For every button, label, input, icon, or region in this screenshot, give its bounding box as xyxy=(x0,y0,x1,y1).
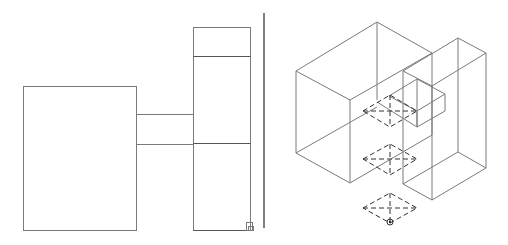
tall-block-outline[interactable] xyxy=(194,28,251,231)
drawing-canvas[interactable] xyxy=(0,0,508,245)
connector-box-wireframe[interactable] xyxy=(377,79,445,127)
large-block-outline[interactable] xyxy=(24,87,137,231)
isometric-view xyxy=(296,22,486,225)
plan-view xyxy=(24,28,254,231)
